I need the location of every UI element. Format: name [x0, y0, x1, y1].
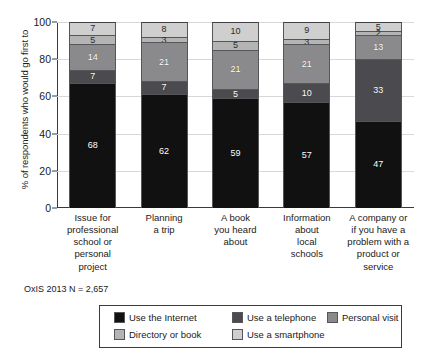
bar-segment-value: 21: [230, 65, 240, 74]
legend-swatch-icon: [232, 329, 243, 340]
bar-segment-value: 5: [233, 41, 238, 50]
x-axis-label-line: professional: [60, 224, 126, 236]
legend-item[interactable]: Directory or book: [114, 329, 201, 340]
x-axis-label-line: Information: [274, 212, 340, 224]
bar-segment-value: 21: [302, 60, 312, 69]
x-axis-label-1: Planninga trip: [131, 212, 197, 236]
bar-group: 75147688321762105215599321105752133347: [57, 22, 414, 208]
bar-segment[interactable]: 7: [69, 22, 116, 35]
x-axis-label-line: about: [202, 236, 268, 248]
bar-segment[interactable]: 5: [212, 41, 259, 50]
legend-item[interactable]: Use a smartphone: [232, 329, 325, 340]
legend-swatch-icon: [232, 312, 243, 323]
x-axis-label-3: Informationaboutlocalschools: [274, 212, 340, 261]
legend-swatch-icon: [114, 312, 125, 323]
bar-segment-value: 57: [302, 151, 312, 160]
bar-segment[interactable]: 10: [212, 22, 259, 41]
plot-area: 100806040200 751476883217621052155993211…: [57, 22, 414, 208]
x-axis-label-2: A bookyou heardabout: [202, 212, 268, 248]
legend-row: Directory or bookUse a smartphone: [107, 328, 394, 341]
bar-segment[interactable]: 21: [283, 44, 330, 83]
x-axis-category-labels: Issue forprofessionalschool orpersonal p…: [57, 212, 414, 273]
x-axis-label-line: Issue for: [60, 212, 126, 224]
legend-item[interactable]: Use a telephone: [232, 312, 316, 323]
x-axis-label-line: problem with a: [345, 236, 411, 248]
legend-swatch-icon: [114, 329, 125, 340]
legend-row: Use the InternetUse a telephonePersonal …: [107, 311, 394, 324]
bar-segment-value: 13: [373, 43, 383, 52]
stacked-bar-chart-figure: % of respondents who would go first to 1…: [0, 0, 425, 362]
bar-segment-value: 7: [90, 72, 95, 81]
legend-label: Personal visit: [342, 312, 399, 323]
bar-issue-professional[interactable]: 7514768: [69, 22, 116, 208]
bar-segment[interactable]: 5: [69, 35, 116, 44]
x-axis-label-line: A company or: [345, 212, 411, 224]
x-axis-label-line: product or: [345, 248, 411, 260]
bar-segment-value: 7: [162, 83, 167, 92]
legend-swatch-icon: [327, 312, 338, 323]
bar-segment-value: 62: [159, 147, 169, 156]
chart-legend: Use the InternetUse a telephonePersonal …: [99, 305, 402, 348]
bar-segment[interactable]: 10: [283, 83, 330, 102]
bar-segment-value: 10: [230, 27, 240, 36]
bar-segment-value: 10: [302, 89, 312, 98]
x-axis-label-0: Issue forprofessionalschool orpersonal p…: [60, 212, 126, 273]
bar-segment-value: 47: [373, 160, 383, 169]
bar-segment-value: 5: [90, 36, 95, 45]
x-axis-label-line: you heard: [202, 224, 268, 236]
bar-segment[interactable]: 21: [141, 42, 188, 81]
x-axis-label-line: personal project: [60, 248, 126, 272]
x-axis-label-line: service: [345, 261, 411, 273]
bar-segment-value: 14: [88, 53, 98, 62]
x-axis-label-line: schools: [274, 248, 340, 260]
bar-segment[interactable]: 59: [212, 98, 259, 208]
x-axis-label-4: A company orif you have aproblem with ap…: [345, 212, 411, 273]
bar-segment-value: 5: [233, 90, 238, 99]
bar-segment[interactable]: 47: [355, 121, 402, 208]
bar-local-schools[interactable]: 93211057: [283, 22, 330, 208]
legend-label: Use a telephone: [247, 312, 316, 323]
bar-planning-trip[interactable]: 8321762: [141, 22, 188, 208]
bar-segment-value: 8: [162, 25, 167, 34]
bar-segment-value: 59: [230, 149, 240, 158]
x-axis-label-line: school or: [60, 236, 126, 248]
legend-item[interactable]: Personal visit: [327, 312, 399, 323]
x-axis-label-line: local: [274, 236, 340, 248]
legend-item[interactable]: Use the Internet: [114, 312, 197, 323]
bar-segment-value: 21: [159, 58, 169, 67]
bar-segment-value: 68: [88, 141, 98, 150]
bar-segment[interactable]: 21: [212, 50, 259, 89]
y-axis-title: % of respondents who would go first to: [19, 10, 30, 210]
bar-segment[interactable]: 62: [141, 94, 188, 208]
source-note: OxIS 2013 N = 2,657: [24, 284, 108, 294]
bar-segment[interactable]: 13: [355, 35, 402, 59]
x-axis-label-line: A book: [202, 212, 268, 224]
bar-segment-value: 7: [90, 24, 95, 33]
bar-book-heard-about[interactable]: 10521559: [212, 22, 259, 208]
bar-company-problem[interactable]: 52133347: [355, 22, 402, 208]
bar-segment[interactable]: 57: [283, 102, 330, 208]
bar-segment[interactable]: 5: [212, 89, 259, 98]
bar-segment[interactable]: 7: [141, 81, 188, 94]
x-axis-label-line: if you have a: [345, 224, 411, 236]
bar-segment-value: 33: [373, 86, 383, 95]
x-axis-label-line: a trip: [131, 224, 197, 236]
bar-segment[interactable]: 33: [355, 59, 402, 120]
legend-label: Use a smartphone: [247, 329, 325, 340]
bar-segment[interactable]: 7: [69, 70, 116, 83]
x-axis-label-line: about: [274, 224, 340, 236]
bar-segment-value: 9: [304, 26, 309, 35]
x-axis-label-line: Planning: [131, 212, 197, 224]
legend-label: Use the Internet: [129, 312, 197, 323]
bar-segment[interactable]: 14: [69, 44, 116, 70]
legend-label: Directory or book: [129, 329, 201, 340]
bar-segment[interactable]: 68: [69, 83, 116, 208]
